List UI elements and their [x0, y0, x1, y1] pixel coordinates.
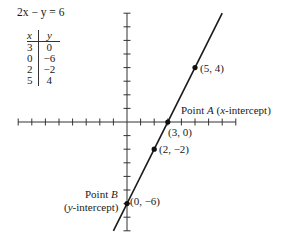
table-cell: 4 [38, 75, 60, 86]
annotation-letter: A [207, 104, 214, 116]
annotation-letter: B [111, 188, 118, 200]
table-header-row: x y [27, 30, 60, 42]
point-label-2-neg2: (2, −2) [159, 143, 189, 155]
table-cell: 5 [27, 75, 38, 86]
values-table: x y 3 0 0 −6 2 −2 5 4 [27, 30, 60, 86]
data-point [152, 147, 157, 152]
data-point [124, 201, 129, 206]
point-b-annotation-line1: Point B [85, 188, 118, 200]
point-label-0-neg6: (0, −6) [130, 195, 160, 207]
annotation-text: Point [85, 188, 111, 200]
annotation-text: -intercept) [73, 201, 119, 213]
annotation-text: -intercept) [225, 104, 271, 116]
point-label-5-4: (5, 4) [200, 62, 224, 74]
data-point [165, 119, 170, 124]
annotation-text: Point [181, 104, 207, 116]
table-row: 5 4 [27, 75, 60, 86]
table-header-y: y [38, 30, 60, 42]
point-a-annotation: Point A (x-intercept) [181, 104, 271, 116]
point-b-annotation-line2: (y-intercept) [64, 201, 118, 213]
equation-label: 2x − y = 6 [17, 6, 64, 18]
point-label-3-0: (3, 0) [168, 126, 192, 138]
table-header-x: x [27, 30, 38, 42]
data-point [192, 65, 197, 70]
